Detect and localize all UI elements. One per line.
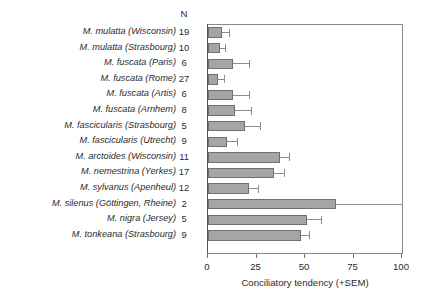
bar — [208, 137, 227, 147]
error-bar-cap — [225, 44, 226, 52]
n-value-column: 19106276859111712259 — [170, 24, 198, 242]
bar-row — [208, 103, 402, 119]
x-tick-label: 75 — [347, 261, 358, 272]
n-value: 6 — [170, 55, 198, 71]
bar-row — [208, 87, 402, 103]
bar — [208, 152, 280, 162]
category-label: M. mulatta (Strasbourg) — [0, 40, 182, 56]
error-bar-line — [235, 110, 251, 111]
x-tick — [353, 254, 354, 258]
bar-row — [208, 119, 402, 135]
bar — [208, 90, 233, 100]
bar — [208, 74, 218, 84]
bar-row — [208, 212, 402, 228]
x-axis-tick-labels: 0255075100 — [187, 261, 427, 275]
bar-row — [208, 181, 402, 197]
bar-row — [208, 72, 402, 88]
error-bar-cap — [284, 169, 285, 177]
bar — [208, 27, 222, 37]
n-value: 19 — [170, 24, 198, 40]
category-label: M. nigra (Jersey) — [0, 211, 182, 227]
error-bar-cap — [224, 75, 225, 83]
error-bar-cap — [321, 216, 322, 224]
bar-row — [208, 150, 402, 166]
error-bar-line — [280, 157, 290, 158]
bar — [208, 168, 274, 178]
x-axis-title: Conciliatory tendency (+SEM) — [207, 277, 403, 288]
n-column-header: N — [170, 8, 198, 19]
category-label: M. arctoides (Wisconsin) — [0, 149, 182, 165]
bar — [208, 183, 249, 193]
bar — [208, 43, 220, 53]
error-bar-line — [301, 235, 309, 236]
error-bar-line — [222, 32, 230, 33]
bar-row — [208, 41, 402, 57]
x-tick — [207, 254, 208, 258]
error-bar-line — [233, 63, 249, 64]
n-value: 8 — [170, 102, 198, 118]
category-label: M. fascicularis (Strasbourg) — [0, 118, 182, 134]
error-bar-cap — [251, 107, 252, 115]
n-value: 11 — [170, 149, 198, 165]
error-bar-line — [274, 173, 284, 174]
error-bar-cap — [229, 29, 230, 37]
category-label: M. fuscata (Paris) — [0, 55, 182, 71]
category-label-column: M. mulatta (Wisconsin)M. mulatta (Strasb… — [0, 24, 182, 242]
n-value: 9 — [170, 133, 198, 149]
n-value: 9 — [170, 227, 198, 243]
bar-row — [208, 165, 402, 181]
bars-container — [208, 25, 402, 253]
bar — [208, 121, 245, 131]
category-label: M. silenus (Göttingen, Rheine) — [0, 196, 182, 212]
error-bar-line — [233, 95, 249, 96]
category-label: M. fuscata (Arnhem) — [0, 102, 182, 118]
bar — [208, 230, 301, 240]
bar-row — [208, 197, 402, 213]
category-label: M. fuscata (Rome) — [0, 71, 182, 87]
chart-figure: N M. mulatta (Wisconsin)M. mulatta (Stra… — [0, 0, 432, 302]
x-tick — [304, 254, 305, 258]
bar — [208, 215, 307, 225]
bar — [208, 59, 233, 69]
n-value: 6 — [170, 86, 198, 102]
bar — [208, 105, 235, 115]
error-bar-cap — [260, 122, 261, 130]
bar-row — [208, 56, 402, 72]
category-label: M. nemestrina (Yerkes) — [0, 164, 182, 180]
n-value: 27 — [170, 71, 198, 87]
bar-row — [208, 228, 402, 244]
x-tick-label: 100 — [393, 261, 409, 272]
x-tick — [401, 254, 402, 258]
error-bar-cap — [237, 138, 238, 146]
bar-row — [208, 25, 402, 41]
x-tick — [256, 254, 257, 258]
category-label: M. fascicularis (Utrecht) — [0, 133, 182, 149]
error-bar-line — [227, 141, 237, 142]
x-tick-label: 25 — [250, 261, 261, 272]
plot-area — [207, 24, 403, 254]
n-value: 5 — [170, 118, 198, 134]
category-label: M. fuscata (Artis) — [0, 86, 182, 102]
n-value: 17 — [170, 164, 198, 180]
error-bar-cap — [258, 185, 259, 193]
bar — [208, 199, 336, 209]
error-bar-line — [245, 126, 261, 127]
error-bar-cap — [289, 153, 290, 161]
bar-row — [208, 134, 402, 150]
error-bar-cap — [249, 60, 250, 68]
n-value: 10 — [170, 40, 198, 56]
category-label: M. tonkeana (Strasbourg) — [0, 227, 182, 243]
category-label: M. mulatta (Wisconsin) — [0, 24, 182, 40]
n-value: 5 — [170, 211, 198, 227]
error-bar-line — [307, 219, 321, 220]
error-bar-cap — [249, 91, 250, 99]
n-value: 12 — [170, 180, 198, 196]
error-bar-cap — [402, 200, 403, 208]
n-value: 2 — [170, 196, 198, 212]
x-tick-label: 0 — [204, 261, 209, 272]
error-bar-cap — [309, 231, 310, 239]
error-bar-line — [249, 188, 259, 189]
x-tick-label: 50 — [299, 261, 310, 272]
category-label: M. sylvanus (Apenheul) — [0, 180, 182, 196]
error-bar-line — [336, 204, 402, 205]
